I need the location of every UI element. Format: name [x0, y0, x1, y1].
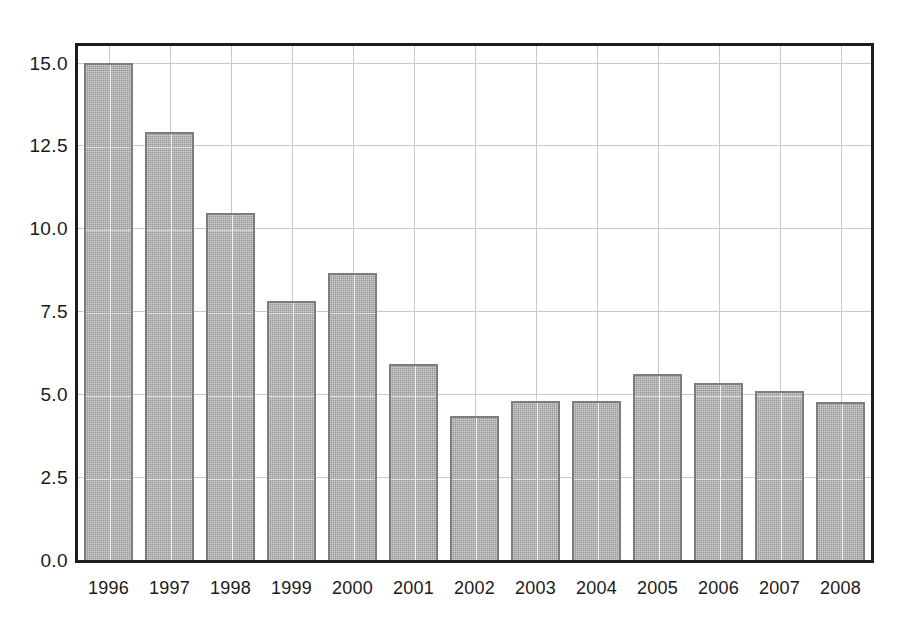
bar-gridline-horizontal — [86, 230, 131, 231]
bar-gridline-horizontal — [818, 479, 863, 480]
bar — [633, 374, 682, 560]
bar-gridline-vertical — [598, 403, 599, 560]
bar-gridline-horizontal — [635, 479, 680, 480]
bar-gridline-horizontal — [391, 479, 436, 480]
bar-gridline-vertical — [781, 393, 782, 560]
bar-gridline-horizontal — [147, 230, 192, 231]
bar-gridline-horizontal — [574, 479, 619, 480]
bar-chart-figure: 0.02.55.07.510.012.515.0 199619971998199… — [0, 0, 901, 624]
bar-gridline-horizontal — [86, 396, 131, 397]
bar — [694, 383, 743, 560]
x-tick-label: 2007 — [759, 578, 800, 598]
bar-gridline-vertical — [171, 134, 172, 560]
bar — [511, 401, 560, 560]
bar-gridline-vertical — [720, 385, 721, 560]
bar-gridline-horizontal — [147, 396, 192, 397]
bar — [755, 391, 804, 560]
bar-gridline-horizontal — [147, 313, 192, 314]
y-tick-label: 7.5 — [2, 302, 68, 321]
bar-gridline-horizontal — [208, 479, 253, 480]
x-tick-label: 2006 — [698, 578, 739, 598]
bar-gridline-horizontal — [147, 147, 192, 148]
bar-gridline-horizontal — [391, 396, 436, 397]
bar-gridline-horizontal — [208, 230, 253, 231]
bar-gridline-vertical — [293, 303, 294, 560]
bar-gridline-horizontal — [86, 147, 131, 148]
y-axis-tick-labels: 0.02.55.07.510.012.515.0 — [0, 0, 68, 624]
bar — [816, 402, 865, 560]
bar-gridline-horizontal — [757, 479, 802, 480]
bar-gridline-horizontal — [269, 479, 314, 480]
bar-gridline-horizontal — [269, 396, 314, 397]
bar-gridline-horizontal — [757, 396, 802, 397]
y-tick-label: 0.0 — [2, 551, 68, 570]
y-tick-label: 15.0 — [2, 53, 68, 72]
bar-gridline-horizontal — [208, 396, 253, 397]
bar-gridline-horizontal — [86, 479, 131, 480]
x-tick-label: 2000 — [332, 578, 373, 598]
bar-gridline-vertical — [354, 275, 355, 560]
bar-gridline-horizontal — [86, 313, 131, 314]
bar — [450, 416, 499, 560]
bar — [328, 273, 377, 560]
bar-gridline-vertical — [110, 65, 111, 560]
y-tick-label: 2.5 — [2, 468, 68, 487]
bar-gridline-vertical — [537, 403, 538, 560]
y-tick-label: 5.0 — [2, 385, 68, 404]
bar-gridline-horizontal — [147, 479, 192, 480]
x-axis-tick-labels: 1996199719981999200020012002200320042005… — [0, 578, 901, 608]
bar — [572, 401, 621, 560]
bar-gridline-horizontal — [330, 479, 375, 480]
bar-gridline-vertical — [476, 418, 477, 560]
bar-gridline-horizontal — [208, 313, 253, 314]
y-tick-label: 12.5 — [2, 136, 68, 155]
x-tick-label: 2003 — [515, 578, 556, 598]
x-tick-label: 1997 — [149, 578, 190, 598]
bar-gridline-horizontal — [330, 313, 375, 314]
x-tick-label: 2005 — [637, 578, 678, 598]
bar-gridline-vertical — [232, 215, 233, 560]
bar-gridline-horizontal — [269, 313, 314, 314]
bar-gridline-horizontal — [330, 396, 375, 397]
bar-gridline-horizontal — [696, 479, 741, 480]
bar-gridline-horizontal — [452, 479, 497, 480]
bar-gridline-horizontal — [513, 479, 558, 480]
bar — [84, 63, 133, 560]
x-tick-label: 1999 — [271, 578, 312, 598]
bar-gridline-vertical — [659, 376, 660, 560]
bar — [145, 132, 194, 560]
plot-area — [75, 43, 874, 563]
x-tick-label: 2008 — [820, 578, 861, 598]
bar-gridline-horizontal — [696, 396, 741, 397]
x-tick-label: 1998 — [210, 578, 251, 598]
bar-gridline-vertical — [842, 404, 843, 560]
y-tick-label: 10.0 — [2, 219, 68, 238]
x-tick-label: 2002 — [454, 578, 495, 598]
x-tick-label: 2004 — [576, 578, 617, 598]
bar — [206, 213, 255, 560]
x-tick-label: 2001 — [393, 578, 434, 598]
bar — [267, 301, 316, 560]
bar — [389, 364, 438, 560]
bar-gridline-horizontal — [635, 396, 680, 397]
bars-layer — [78, 46, 871, 560]
x-tick-label: 1996 — [88, 578, 129, 598]
